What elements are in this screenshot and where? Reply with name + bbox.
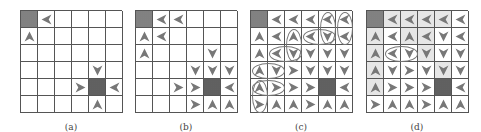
grid-cell: [204, 28, 221, 45]
left-arrow-icon: [339, 31, 350, 42]
down-arrow-icon: [455, 65, 466, 76]
down-arrow-icon: [455, 48, 466, 59]
up-arrow-icon: [438, 99, 449, 110]
up-arrow-icon: [254, 31, 265, 42]
grid-cell: [302, 96, 319, 113]
left-arrow-icon: [173, 14, 184, 25]
grid-cell: [251, 62, 268, 79]
down-arrow-icon: [92, 65, 103, 76]
right-arrow-icon: [387, 82, 398, 93]
grid-cell: [268, 79, 285, 96]
grid-cell: [319, 62, 336, 79]
grid-cell: [384, 28, 401, 45]
grid-cell: [72, 79, 89, 96]
down-arrow-icon: [224, 65, 235, 76]
grid-cell: [452, 11, 469, 28]
grid-cell: [285, 45, 302, 62]
grid-cell: [401, 11, 418, 28]
grid-cell: [204, 45, 221, 62]
down-arrow-icon: [438, 65, 449, 76]
down-arrow-icon: [339, 48, 350, 59]
left-arrow-icon: [271, 14, 282, 25]
grid-cell: [72, 28, 89, 45]
grid-cell: [336, 11, 353, 28]
grid-cell: [187, 28, 204, 45]
grid-cell: [435, 45, 452, 62]
grid-cell: [452, 62, 469, 79]
grid-cell: [170, 96, 187, 113]
grid-cell: [302, 28, 319, 45]
up-arrow-icon: [224, 99, 235, 110]
grid-cell: [435, 62, 452, 79]
down-arrow-icon: [288, 48, 299, 59]
grid-cell: [21, 28, 38, 45]
up-arrow-icon: [254, 82, 265, 93]
grid-cell: [384, 79, 401, 96]
up-arrow-icon: [139, 48, 150, 59]
grid-world-c: [250, 10, 352, 113]
grid-cell: [55, 45, 72, 62]
grid-cell: [38, 96, 55, 113]
grid-cell: [367, 45, 384, 62]
down-arrow-icon: [438, 48, 449, 59]
grid-cell: [89, 96, 106, 113]
grid-cell: [153, 11, 170, 28]
grid-cell: [221, 62, 238, 79]
left-arrow-icon: [421, 14, 432, 25]
grid-cell: [187, 96, 204, 113]
left-arrow-icon: [455, 31, 466, 42]
grid-cell: [38, 79, 55, 96]
grid-cell: [136, 45, 153, 62]
grid-cell: [367, 79, 384, 96]
grid-cell: [268, 62, 285, 79]
panel-d: (d): [366, 10, 468, 113]
grid-cell: [153, 62, 170, 79]
grid-cell: [418, 45, 435, 62]
grid-cell: [221, 28, 238, 45]
right-arrow-icon: [404, 82, 415, 93]
down-arrow-icon: [421, 48, 432, 59]
grid-cell: [285, 28, 302, 45]
up-arrow-icon: [370, 48, 381, 59]
grid-cell: [452, 28, 469, 45]
grid-cell: [452, 79, 469, 96]
grid-cell: [418, 79, 435, 96]
grid-cell: [72, 11, 89, 28]
grid-cell: [285, 79, 302, 96]
left-arrow-icon: [455, 82, 466, 93]
grid-cell: [72, 62, 89, 79]
grid-cell: [418, 11, 435, 28]
down-arrow-icon: [305, 65, 316, 76]
grid-cell: [89, 45, 106, 62]
grid-cell: [55, 79, 72, 96]
obstacle-cell: [435, 79, 452, 96]
grid-cell: [170, 62, 187, 79]
right-arrow-icon: [305, 82, 316, 93]
grid-cell: [384, 96, 401, 113]
grid-cell: [367, 96, 384, 113]
goal-cell: [21, 11, 38, 28]
grid-cell: [285, 62, 302, 79]
goal-cell: [136, 11, 153, 28]
grid-cell: [204, 11, 221, 28]
grid-cell: [367, 62, 384, 79]
grid-cell: [170, 79, 187, 96]
grid-cell: [106, 96, 123, 113]
grid-cell: [221, 96, 238, 113]
grid-cell: [170, 45, 187, 62]
grid-cell: [384, 62, 401, 79]
grid-cell: [401, 96, 418, 113]
grid-cell: [136, 96, 153, 113]
goal-cell: [251, 11, 268, 28]
grid-cell: [72, 45, 89, 62]
up-arrow-icon: [322, 99, 333, 110]
goal-cell: [367, 11, 384, 28]
up-arrow-icon: [288, 31, 299, 42]
grid-cell: [435, 28, 452, 45]
left-arrow-icon: [455, 14, 466, 25]
grid-cell: [319, 45, 336, 62]
grid-cell: [268, 96, 285, 113]
grid-cell: [302, 11, 319, 28]
up-arrow-icon: [370, 82, 381, 93]
grid-cell: [136, 28, 153, 45]
